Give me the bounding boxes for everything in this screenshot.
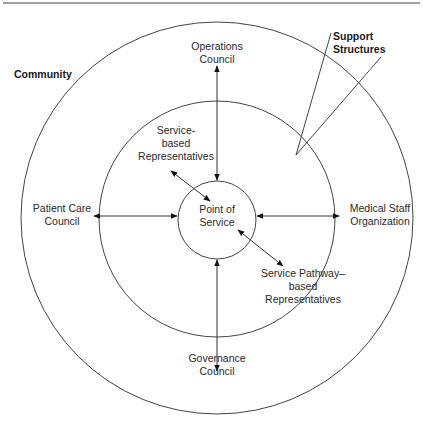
- support-pointer-line-1: [296, 33, 331, 155]
- support-text-line1: Support: [333, 30, 386, 43]
- service-based-representatives-label: Service- based Representatives: [126, 124, 226, 163]
- pathway-text-line2: based: [248, 280, 358, 293]
- medical-staff-text-line1: Medical Staff: [336, 202, 423, 215]
- patient-care-text-line2: Council: [22, 215, 102, 228]
- operations-text-line2: Council: [177, 53, 257, 66]
- governance-text-line2: Council: [177, 365, 257, 378]
- point-text-line1: Point of: [187, 203, 247, 216]
- support-text-line2: Structures: [333, 43, 386, 56]
- community-label: Community: [14, 68, 72, 81]
- pathway-text-line1: Service Pathway–: [248, 267, 358, 280]
- arrow-service-based: [171, 171, 210, 201]
- service-pathway-representatives-label: Service Pathway– based Representatives: [248, 267, 358, 306]
- pathway-text-line3: Representatives: [248, 293, 358, 306]
- support-structures-label: Support Structures: [333, 30, 386, 56]
- governance-text-line1: Governance: [177, 352, 257, 365]
- support-pointer-line-2: [296, 57, 381, 155]
- governance-council-label: Governance Council: [177, 352, 257, 378]
- medical-staff-text-line2: Organization: [336, 215, 423, 228]
- patient-care-text-line1: Patient Care: [22, 202, 102, 215]
- service-based-text-line1: Service-: [126, 124, 226, 137]
- point-of-service-label: Point of Service: [187, 203, 247, 229]
- operations-council-label: Operations Council: [177, 40, 257, 66]
- point-text-line2: Service: [187, 216, 247, 229]
- community-text: Community: [14, 68, 72, 80]
- operations-text-line1: Operations: [177, 40, 257, 53]
- medical-staff-organization-label: Medical Staff Organization: [336, 202, 423, 228]
- service-based-text-line2: based: [126, 137, 226, 150]
- patient-care-council-label: Patient Care Council: [22, 202, 102, 228]
- service-based-text-line3: Representatives: [126, 150, 226, 163]
